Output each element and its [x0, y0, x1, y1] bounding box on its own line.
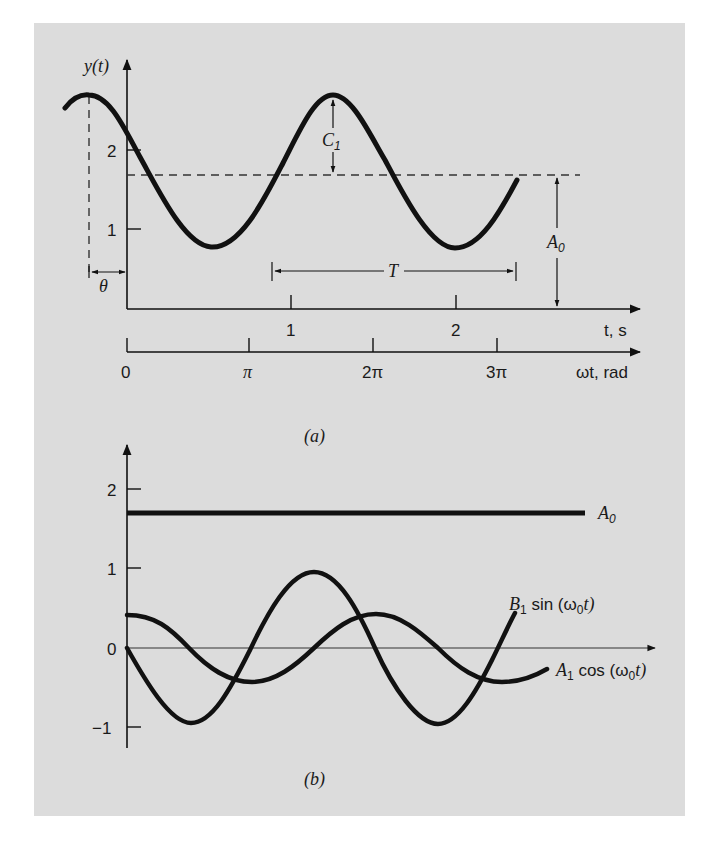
- panel-a-omega-axis-label: ωt, rad: [576, 363, 628, 382]
- period-label: T: [388, 261, 400, 281]
- panel-a: y(t) 2 1 1 2 t, s 0 π 2π 3π ωt, rad θ: [65, 56, 640, 447]
- tick-label-y-2: 2: [107, 142, 116, 161]
- panel-a-t-axis-label: t, s: [604, 321, 627, 340]
- a0-label: A0: [546, 232, 565, 255]
- tick-label-t-2: 2: [451, 321, 460, 340]
- tick-label-omega-0: 0: [121, 363, 130, 382]
- tick-label-omega-2pi: 2π: [362, 363, 383, 382]
- tick-label-b-2: 2: [107, 481, 116, 500]
- panel-b: 2 1 0 −1 A0 B1 sin (ω0t) A1 cos (ω0t) (b…: [92, 445, 655, 790]
- tick-label-b-1: 1: [107, 560, 116, 579]
- tick-label-t-1: 1: [286, 321, 295, 340]
- tick-label-omega-pi: π: [243, 362, 253, 382]
- a0-constant-label: A0: [597, 503, 616, 526]
- panel-b-caption: (b): [304, 769, 325, 790]
- tick-label-y-1: 1: [107, 221, 116, 240]
- theta-label: θ: [99, 276, 108, 296]
- figure-svg: y(t) 2 1 1 2 t, s 0 π 2π 3π ωt, rad θ: [0, 0, 703, 846]
- tick-label-b-0: 0: [107, 640, 116, 659]
- sinusoid-curve: [65, 95, 517, 248]
- tick-label-omega-3pi: 3π: [486, 363, 507, 382]
- tick-label-b-neg1: −1: [92, 719, 111, 738]
- panel-a-y-axis-label: y(t): [82, 56, 109, 77]
- a1-cosine-label: A1 cos (ω0t): [555, 660, 646, 683]
- c1-label: C1: [322, 130, 341, 153]
- panel-a-caption: (a): [304, 426, 325, 447]
- b1-sine-label: B1 sin (ω0t): [509, 594, 595, 617]
